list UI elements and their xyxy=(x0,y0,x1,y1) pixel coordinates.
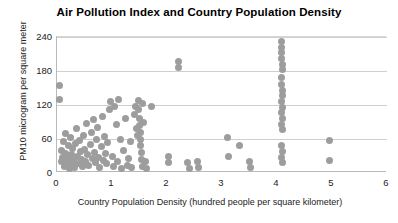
plot-area xyxy=(56,36,386,172)
x-tick-label: 4 xyxy=(261,177,291,188)
data-point xyxy=(94,124,101,131)
data-point xyxy=(120,147,127,154)
data-point xyxy=(113,121,120,128)
data-point xyxy=(104,139,111,146)
data-point xyxy=(279,159,286,166)
x-axis-ticks: 0123456 xyxy=(56,177,386,191)
data-point xyxy=(236,142,243,149)
y-axis-ticks: 060120180240 xyxy=(0,36,52,172)
x-tick-label: 2 xyxy=(151,177,181,188)
gridline xyxy=(57,37,387,38)
data-point xyxy=(73,125,80,132)
x-tick-label: 6 xyxy=(371,177,398,188)
data-point xyxy=(125,155,132,162)
data-point xyxy=(186,165,193,172)
data-point xyxy=(90,116,97,123)
data-point xyxy=(326,157,333,164)
gridline xyxy=(57,71,387,72)
data-point xyxy=(195,164,202,171)
data-point xyxy=(99,113,106,120)
data-point xyxy=(140,119,147,126)
data-point xyxy=(93,136,100,143)
data-point xyxy=(137,129,144,136)
data-point xyxy=(165,159,172,166)
data-point xyxy=(127,138,134,145)
data-point xyxy=(128,164,135,171)
data-point xyxy=(225,153,232,160)
y-tick-label: 240 xyxy=(4,31,52,42)
data-point xyxy=(224,134,231,141)
data-point xyxy=(56,96,63,103)
data-point xyxy=(135,106,142,113)
y-tick-label: 0 xyxy=(4,167,52,178)
chart-title: Air Pollution Index and Country Populati… xyxy=(0,6,398,18)
data-point xyxy=(103,160,110,167)
x-tick-label: 3 xyxy=(206,177,236,188)
x-tick-label: 5 xyxy=(316,177,346,188)
x-tick-label: 0 xyxy=(41,177,71,188)
data-point xyxy=(56,82,63,89)
data-point xyxy=(102,150,109,157)
data-point xyxy=(279,126,286,133)
y-tick-label: 120 xyxy=(4,99,52,110)
data-point xyxy=(247,164,254,171)
scatter-chart: Air Pollution Index and Country Populati… xyxy=(0,0,398,223)
x-axis-label: Country Population Density (hundred peop… xyxy=(30,197,390,207)
y-tick-label: 180 xyxy=(4,65,52,76)
data-point xyxy=(115,96,122,103)
data-point xyxy=(88,129,95,136)
data-point xyxy=(87,141,94,148)
data-point xyxy=(279,66,286,73)
x-tick-label: 1 xyxy=(96,177,126,188)
data-point xyxy=(139,100,146,107)
data-point xyxy=(111,103,118,110)
data-point xyxy=(83,120,90,127)
data-point xyxy=(117,136,124,143)
data-point xyxy=(148,103,155,110)
data-point xyxy=(326,137,333,144)
data-point xyxy=(143,165,150,172)
data-point xyxy=(80,132,87,139)
y-tick-label: 60 xyxy=(4,133,52,144)
data-point xyxy=(122,115,129,122)
